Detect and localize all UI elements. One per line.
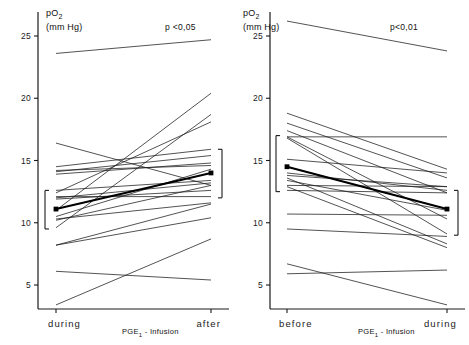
mean-marker — [285, 164, 290, 169]
y-tick-label: 15 — [253, 156, 263, 166]
subject-line — [287, 137, 447, 219]
y-tick-label: 20 — [253, 93, 263, 103]
y-tick-label: 25 — [21, 31, 31, 41]
subject-line — [287, 214, 447, 215]
mean-marker — [209, 171, 214, 176]
y-tick-label: 5 — [258, 280, 263, 290]
x-category-label: during — [424, 318, 457, 329]
y-tick-label: 25 — [253, 31, 263, 41]
y-tick-label: 10 — [253, 218, 263, 228]
subject-line — [287, 229, 447, 236]
subject-line — [56, 218, 211, 245]
subject-line — [287, 159, 447, 173]
y-tick-label: 15 — [21, 156, 31, 166]
subject-line — [287, 270, 447, 274]
x-category-label: before — [279, 318, 313, 329]
subject-line — [287, 21, 447, 51]
x-axis-title-left: PGE1 - Infusion — [122, 327, 179, 338]
y-tick-label: 5 — [26, 280, 31, 290]
x-axis-title-rest: - Infusion — [378, 327, 414, 336]
y-axis-ticks: 510152025 — [21, 31, 38, 290]
subject-line — [287, 264, 447, 305]
plot-area-left: 510152025duringafter — [0, 0, 234, 345]
paired-slope-figure: pO2 (mm Hg) p <0,05 510152025duringafter… — [0, 0, 469, 345]
subject-line — [56, 40, 211, 54]
x-category-label: during — [48, 318, 81, 329]
y-tick-label: 20 — [21, 93, 31, 103]
subject-lines — [287, 21, 447, 305]
subject-line — [56, 165, 211, 170]
subject-lines — [56, 40, 211, 305]
mean-marker — [54, 207, 59, 212]
subject-line — [56, 271, 211, 280]
subject-line — [56, 163, 211, 174]
x-axis-title-right: PGE1 - Infusion — [358, 327, 415, 338]
subject-line — [287, 131, 447, 193]
subject-line — [56, 239, 211, 305]
plot-area-right: 510152025beforeduring — [234, 0, 469, 345]
panel-left: pO2 (mm Hg) p <0,05 510152025duringafter… — [0, 0, 234, 345]
y-axis-ticks: 510152025 — [253, 31, 270, 290]
subject-line — [287, 187, 447, 248]
mean-marker — [445, 207, 450, 212]
x-category-label: after — [196, 318, 221, 329]
axes — [38, 12, 229, 309]
subject-line — [287, 190, 447, 192]
subject-line — [287, 123, 447, 178]
subject-line — [56, 204, 211, 245]
x-axis-title-rest: - Infusion — [142, 327, 178, 336]
panel-right: pO2 (mm Hg) p<0,01 510152025beforeduring… — [234, 0, 469, 345]
x-axis-title-text: PGE — [122, 327, 139, 336]
y-tick-label: 10 — [21, 218, 31, 228]
x-axis-title-text: PGE — [358, 327, 375, 336]
subject-line — [287, 113, 447, 169]
